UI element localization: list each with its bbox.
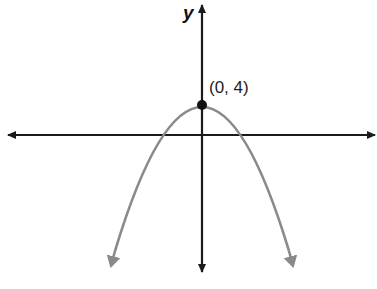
vertex-point [197,100,207,110]
vertex-label: (0, 4) [209,78,249,98]
parabola-right-arrow [289,251,293,266]
graph [0,0,377,289]
y-axis-label: y [183,2,194,24]
parabola-left-arrow [111,251,115,266]
